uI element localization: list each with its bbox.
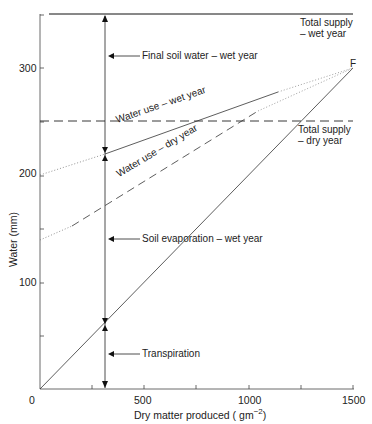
x-axis-label-text: Dry matter produced ( gm: [134, 409, 254, 421]
water-use-wet-dotted: [40, 154, 105, 175]
final-soil-water-label: Final soil water – wet year: [142, 50, 258, 61]
water-use-dry-dotted-end: [258, 68, 353, 111]
chart-canvas: [0, 0, 372, 424]
x-tick-1500: 1500: [342, 394, 365, 406]
transpiration-label: Transpiration: [142, 348, 200, 359]
transpiration-line: [40, 68, 353, 389]
total-supply-wet-label-1: Total supply: [300, 17, 353, 28]
water-use-dry-line: [72, 111, 258, 226]
soil-evaporation-label: Soil evaporation – wet year: [142, 233, 263, 244]
x-axis-label: Dry matter produced ( gm−2): [134, 406, 266, 421]
x-tick-500: 500: [134, 394, 152, 406]
y-tick-300: 300: [19, 62, 37, 74]
y-axis-label: Water (mm): [8, 212, 19, 267]
y-tick-100: 100: [19, 276, 37, 288]
y-tick-200: 200: [19, 167, 37, 179]
total-supply-wet-label-2: – wet year: [300, 28, 346, 39]
water-use-dry-dotted: [40, 226, 72, 240]
point-f-label: F: [350, 58, 356, 69]
total-supply-dry-label-2: – dry year: [298, 135, 342, 146]
x-axis-label-end: ): [263, 409, 267, 421]
x-tick-0: 0: [29, 394, 35, 406]
x-tick-1000: 1000: [238, 394, 261, 406]
total-supply-dry-label-1: Total supply: [298, 124, 351, 135]
x-axis-label-sup: −2: [254, 407, 263, 416]
